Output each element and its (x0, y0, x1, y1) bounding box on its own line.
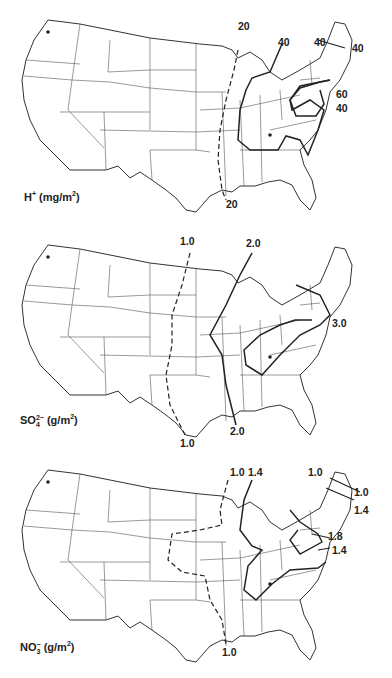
contour-3-solid (244, 285, 330, 375)
contour-label: 40 (278, 36, 290, 48)
map-caption-no3: NO−3 (g/m2) (20, 640, 74, 655)
map-caption-so4: SO2−4 (g/m2) (20, 413, 78, 428)
map-panel-h-plus: 20 20 40 40 40 60 40 H+ (mg/m2) (0, 0, 392, 225)
contour-1-dashed (168, 480, 228, 644)
contour-label: 3.0 (332, 317, 347, 329)
contour-label: 60 (336, 88, 348, 100)
contour-label: 1.0 (222, 646, 237, 658)
contour-1-4-solid (240, 480, 326, 600)
contour-label: 20 (226, 198, 238, 210)
contour-label: 1.0 (354, 486, 369, 498)
map-caption-h-plus: H+ (mg/m2) (24, 190, 80, 203)
contour-label: 1.4 (248, 466, 263, 478)
contour-label: 40 (336, 102, 348, 114)
contour-label: 1.4 (354, 504, 369, 516)
map-panel-so4: 1.0 1.0 2.0 2.0 3.0 SO2−4 (g/m2) (0, 225, 392, 450)
contour-20-dashed (218, 50, 238, 200)
contour-label: 40 (352, 42, 364, 54)
contour-label: 2.0 (230, 425, 245, 437)
contour-label: 1.0 (308, 466, 323, 478)
contour-1-dashed (166, 253, 190, 437)
contour-label: 1.0 (180, 437, 195, 449)
contour-label: 20 (238, 20, 250, 32)
contour-label: 1.0 (230, 466, 245, 478)
map-panel-no3: 1.0 1.4 1.0 1.0 1.4 1.8 1.4 1.0 NO−3 (g/… (0, 450, 392, 678)
contour-label: 40 (314, 36, 326, 48)
contour-label: 2.0 (246, 237, 261, 249)
contour-label: 1.8 (328, 530, 343, 542)
contour-label: 1.0 (180, 235, 195, 247)
contour-label: 1.4 (332, 544, 347, 556)
